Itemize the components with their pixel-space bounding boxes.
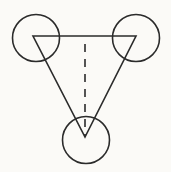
- geometric-diagram: [0, 0, 171, 172]
- figure-container: Three circles joined by a triangle with …: [0, 0, 171, 172]
- diagram-background: [0, 0, 171, 172]
